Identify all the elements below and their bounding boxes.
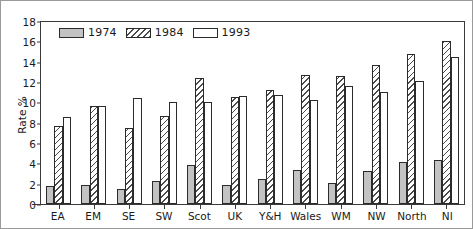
legend-item-1993: 1993: [193, 26, 251, 39]
x-axis-tick-label: NW: [367, 210, 385, 222]
x-axis-tick-label: EM: [85, 210, 101, 222]
x-label-cell: NW: [359, 1, 394, 229]
legend-swatch-solid-gray: [59, 28, 84, 38]
x-axis-tick-label: SE: [122, 210, 135, 222]
x-axis-tick-label: EA: [51, 210, 65, 222]
x-label-cell: Wales: [288, 1, 323, 229]
legend-swatch-hatched: [126, 28, 151, 38]
legend-item-1974: 1974: [59, 26, 117, 39]
legend-item-label: 1974: [88, 26, 117, 39]
x-label-cell: North: [394, 1, 429, 229]
bar-chart-figure: Rate % 024681012141618 EAEMSESWScotUKY&H…: [0, 0, 473, 229]
x-axis-tick-label: SW: [155, 210, 172, 222]
x-axis-tick-label: WM: [331, 210, 350, 222]
x-axis-tick-label: Scot: [188, 210, 211, 222]
x-axis-tick-label: Y&H: [259, 210, 282, 222]
legend-item-label: 1984: [155, 26, 184, 39]
legend-item-1984: 1984: [126, 26, 184, 39]
legend-swatch-white: [193, 28, 218, 38]
x-axis-tick-label: Wales: [290, 210, 321, 222]
x-axis-tick-label: UK: [228, 210, 243, 222]
x-label-cell: WM: [323, 1, 358, 229]
chart-legend: 197419841993: [59, 26, 250, 39]
x-axis-tick-label: NI: [442, 210, 453, 222]
x-axis-tick-label: North: [397, 210, 426, 222]
x-label-cell: NI: [430, 1, 465, 229]
legend-item-label: 1993: [222, 26, 251, 39]
x-label-cell: Y&H: [253, 1, 288, 229]
